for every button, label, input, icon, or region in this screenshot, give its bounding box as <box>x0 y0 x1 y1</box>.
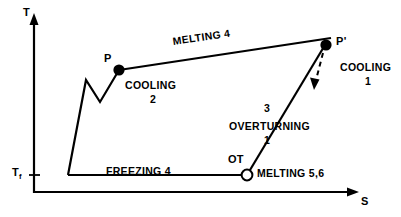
overturning-label: OVERTURNING <box>229 121 310 132</box>
freezing-4-label: FREEZING 4 <box>106 166 171 177</box>
y-axis <box>30 13 39 193</box>
cooling-1-label: COOLING <box>340 62 391 73</box>
point-p-prime-marker <box>320 39 331 50</box>
point-ot-marker <box>242 170 253 181</box>
tf-base: T <box>12 166 19 178</box>
x-axis <box>34 188 359 197</box>
point-p-label: P <box>104 53 112 65</box>
melting-4-line <box>119 38 331 70</box>
y-axis-label: T <box>23 7 30 19</box>
overturning-line <box>247 45 325 175</box>
overturning-number: 1 <box>229 135 305 146</box>
cooling-1-number: 1 <box>340 76 396 87</box>
cooling-2-label: COOLING <box>125 80 176 91</box>
x-axis-label: S <box>361 196 369 208</box>
overturning-top-number: 3 <box>264 103 270 114</box>
tf-axis-value: Tf <box>12 167 22 181</box>
point-ot-label: OT <box>228 154 244 166</box>
cooling-2-number: 2 <box>125 94 181 105</box>
tf-subscript: f <box>19 172 22 181</box>
point-p-prime-label: P' <box>336 36 347 48</box>
cooling-2-zigzag <box>68 70 119 175</box>
phase-diagram-figure: T S Tf P P' OT MELTING 4 COOLING 2 COOLI… <box>0 0 401 217</box>
point-p-marker <box>113 64 124 75</box>
melting-56-label: MELTING 5,6 <box>257 168 324 179</box>
